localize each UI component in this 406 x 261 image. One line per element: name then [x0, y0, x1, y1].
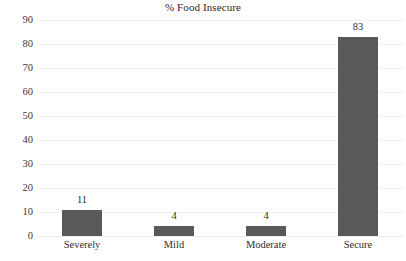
y-axis-tick-label: 30 — [0, 159, 33, 170]
bar — [338, 37, 378, 236]
bar-value-label: 83 — [328, 22, 388, 33]
x-axis-category-labels: SeverelyMildModerateSecure — [36, 239, 404, 259]
x-axis-category-label: Severely — [36, 239, 128, 251]
y-axis-tick-label: 90 — [0, 15, 33, 26]
bar-value-label: 4 — [144, 211, 204, 222]
y-axis-tick-labels: 0102030405060708090 — [0, 20, 33, 236]
bar-value-label: 11 — [52, 195, 112, 206]
plot-area: 114483 — [36, 20, 404, 236]
y-axis-tick-label: 0 — [0, 231, 33, 242]
y-axis-tick-label: 40 — [0, 135, 33, 146]
y-axis-tick-label: 60 — [0, 87, 33, 98]
x-axis-category-label: Mild — [128, 239, 220, 251]
bar — [154, 226, 194, 236]
gridline — [36, 236, 404, 237]
y-axis-tick-label: 70 — [0, 63, 33, 74]
x-axis-category-label: Secure — [312, 239, 404, 251]
chart-title: % Food Insecure — [0, 1, 406, 13]
y-axis-tick-label: 10 — [0, 207, 33, 218]
bar — [62, 210, 102, 236]
bar — [246, 226, 286, 236]
bar-value-label: 4 — [236, 211, 296, 222]
x-axis-category-label: Moderate — [220, 239, 312, 251]
bar-chart: % Food Insecure 0102030405060708090 1144… — [0, 0, 406, 261]
y-axis-tick-label: 20 — [0, 183, 33, 194]
y-axis-tick-label: 80 — [0, 39, 33, 50]
y-axis-tick-label: 50 — [0, 111, 33, 122]
